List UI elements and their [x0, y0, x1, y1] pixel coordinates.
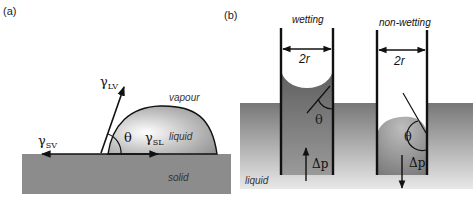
liquid-label-a: liquid [169, 131, 193, 142]
panel-a-label: (a) [3, 5, 16, 17]
nonwetting-diameter-label: 2r [393, 54, 406, 68]
panel-b: (b) 2r wetting θ Δp 2r non-wetting θ Δp [224, 9, 473, 189]
theta-symbol-a: θ [124, 130, 132, 145]
wetting-theta: θ [315, 112, 323, 127]
liquid-label-b: liquid [245, 175, 269, 186]
vapour-label: vapour [169, 92, 200, 103]
nonwetting-pressure-label: Δp [409, 156, 426, 170]
solid-substrate [22, 154, 231, 194]
panel-a: (a) θ γLV γSV γSL vapour liquid solid [3, 5, 231, 194]
wetting-title: wetting [292, 14, 324, 25]
gamma-lv-label: γLV [100, 74, 118, 91]
gamma-sv-label: γSV [38, 133, 57, 150]
wetting-diameter-label: 2r [298, 52, 311, 66]
solid-label: solid [168, 172, 189, 183]
contact-angle-diagram: (a) θ γLV γSV γSL vapour liquid solid (b… [0, 0, 476, 207]
nonwetting-theta: θ [404, 129, 412, 144]
panel-b-label: (b) [224, 9, 237, 21]
wetting-pressure-label: Δp [312, 157, 329, 171]
nonwetting-title: non-wetting [379, 17, 431, 28]
liquid-bath [240, 103, 473, 189]
